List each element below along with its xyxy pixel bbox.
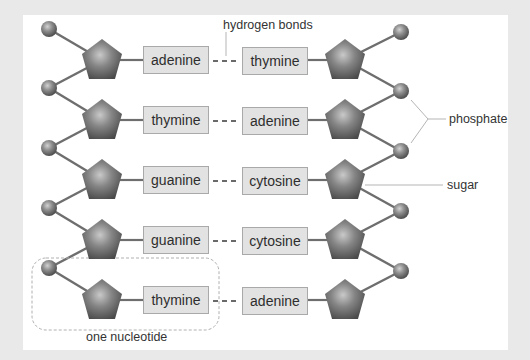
- phosphate-icon: [393, 83, 409, 99]
- left-phosphates: [41, 21, 57, 276]
- phosphate-icon: [393, 143, 409, 159]
- sugar-pentagon-icon: [82, 99, 122, 139]
- left-sugars: [82, 39, 122, 319]
- label-one-nucleotide: one nucleotide: [86, 330, 167, 344]
- base-left-1: adenine: [143, 46, 209, 74]
- phosphate-icon: [41, 80, 57, 96]
- sugar-pentagon-icon: [325, 99, 365, 139]
- phosphate-icon: [41, 200, 57, 216]
- sugar-pentagon-icon: [325, 219, 365, 259]
- sugar-pentagon-icon: [82, 219, 122, 259]
- phosphate-icon: [41, 260, 57, 276]
- base-right-2: adenine: [242, 107, 308, 135]
- right-phosphates: [393, 24, 409, 279]
- label-sugar: sugar: [447, 178, 478, 192]
- base-right-5: adenine: [242, 287, 308, 315]
- base-left-2: thymine: [143, 106, 209, 134]
- label-phosphate: phosphate: [449, 112, 507, 126]
- phosphate-icon: [393, 263, 409, 279]
- sugar-pentagon-icon: [82, 159, 122, 199]
- label-hydrogen-bonds: hydrogen bonds: [223, 18, 313, 32]
- phosphate-icon: [41, 21, 57, 37]
- base-left-5: thymine: [143, 286, 209, 314]
- base-right-4: cytosine: [242, 227, 308, 255]
- phosphate-icon: [41, 140, 57, 156]
- base-right-3: cytosine: [242, 167, 308, 195]
- sugar-pentagon-icon: [325, 159, 365, 199]
- hydrogen-bonds: [213, 61, 240, 301]
- base-left-4: guanine: [143, 226, 209, 254]
- sugar-pentagon-icon: [82, 279, 122, 319]
- sugar-pentagon-icon: [325, 279, 365, 319]
- phosphate-icon: [393, 24, 409, 40]
- sugar-pentagon-icon: [325, 39, 365, 79]
- base-right-1: thymine: [242, 47, 308, 75]
- base-left-3: guanine: [143, 166, 209, 194]
- phosphate-icon: [393, 203, 409, 219]
- right-sugars: [325, 39, 365, 319]
- sugar-pentagon-icon: [82, 39, 122, 79]
